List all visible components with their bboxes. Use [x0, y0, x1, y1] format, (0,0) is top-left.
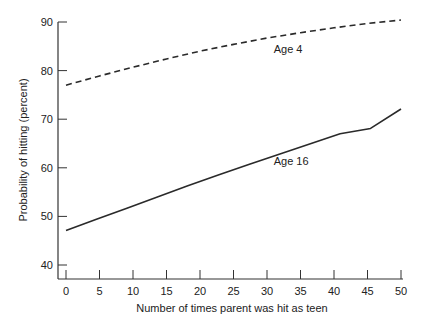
x-ticks: 05101520253035404550: [63, 270, 407, 297]
x-tick-label: 15: [160, 285, 172, 297]
x-tick-label: 20: [194, 285, 206, 297]
y-tick-label: 40: [41, 259, 53, 271]
series-lines: [66, 20, 401, 230]
y-tick-label: 70: [41, 113, 53, 125]
y-tick-label: 90: [41, 16, 53, 28]
x-tick-label: 30: [261, 285, 273, 297]
series-label: Age 4: [274, 43, 303, 55]
series-line-age-4: [66, 20, 401, 85]
x-tick-label: 45: [361, 285, 373, 297]
series-labels: Age 4Age 16: [274, 43, 309, 167]
x-tick-label: 50: [395, 285, 407, 297]
y-tick-label: 50: [41, 210, 53, 222]
x-tick-label: 25: [227, 285, 239, 297]
y-ticks: 405060708090: [41, 16, 67, 271]
y-axis-title: Probability of hitting (percent): [17, 78, 29, 221]
y-tick-label: 60: [41, 162, 53, 174]
x-tick-label: 35: [294, 285, 306, 297]
line-chart: 405060708090 05101520253035404550 Age 4A…: [0, 0, 427, 331]
x-tick-label: 0: [63, 285, 69, 297]
x-axis-title: Number of times parent was hit as teen: [136, 302, 327, 314]
x-tick-label: 40: [328, 285, 340, 297]
x-tick-label: 5: [96, 285, 102, 297]
series-label: Age 16: [274, 155, 309, 167]
axes: [58, 22, 403, 279]
series-line-age-16: [66, 109, 401, 231]
y-tick-label: 80: [41, 65, 53, 77]
x-tick-label: 10: [127, 285, 139, 297]
